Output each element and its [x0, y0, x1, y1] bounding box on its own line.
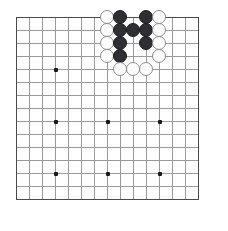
- black-stone[interactable]: [113, 36, 127, 50]
- grid-line-vertical-14: [198, 17, 199, 199]
- grid-line-vertical-1: [29, 17, 30, 199]
- goban[interactable]: [15, 16, 199, 200]
- star-point-5: [158, 120, 162, 124]
- white-stone[interactable]: [100, 36, 114, 50]
- white-stone[interactable]: [152, 23, 166, 37]
- grid-line-vertical-6: [94, 17, 95, 199]
- star-point-6: [158, 172, 162, 176]
- grid-line-vertical-12: [172, 17, 173, 199]
- white-stone[interactable]: [139, 62, 153, 76]
- white-stone[interactable]: [100, 23, 114, 37]
- star-point-2: [54, 172, 58, 176]
- black-stone[interactable]: [139, 36, 153, 50]
- white-stone[interactable]: [152, 36, 166, 50]
- white-stone[interactable]: [152, 49, 166, 63]
- go-diagram-root: [0, 0, 228, 231]
- black-stone[interactable]: [139, 23, 153, 37]
- white-stone[interactable]: [113, 62, 127, 76]
- black-stone[interactable]: [113, 49, 127, 63]
- black-stone[interactable]: [113, 10, 127, 24]
- grid-line-vertical-4: [68, 17, 69, 199]
- star-point-4: [106, 172, 110, 176]
- grid-line-vertical-9: [133, 17, 134, 199]
- white-stone[interactable]: [100, 10, 114, 24]
- grid-line-vertical-13: [185, 17, 186, 199]
- grid-line-vertical-0: [16, 17, 17, 199]
- star-point-1: [54, 120, 58, 124]
- star-point-3: [106, 120, 110, 124]
- grid-line-vertical-2: [42, 17, 43, 199]
- go-board-area[interactable]: [0, 0, 228, 231]
- black-stone[interactable]: [139, 10, 153, 24]
- star-point-0: [54, 68, 58, 72]
- white-stone[interactable]: [152, 10, 166, 24]
- black-stone[interactable]: [126, 23, 140, 37]
- black-stone[interactable]: [113, 23, 127, 37]
- grid-line-vertical-5: [81, 17, 82, 199]
- white-stone[interactable]: [100, 49, 114, 63]
- grid-line-horizontal-14: [16, 199, 198, 200]
- white-stone[interactable]: [126, 62, 140, 76]
